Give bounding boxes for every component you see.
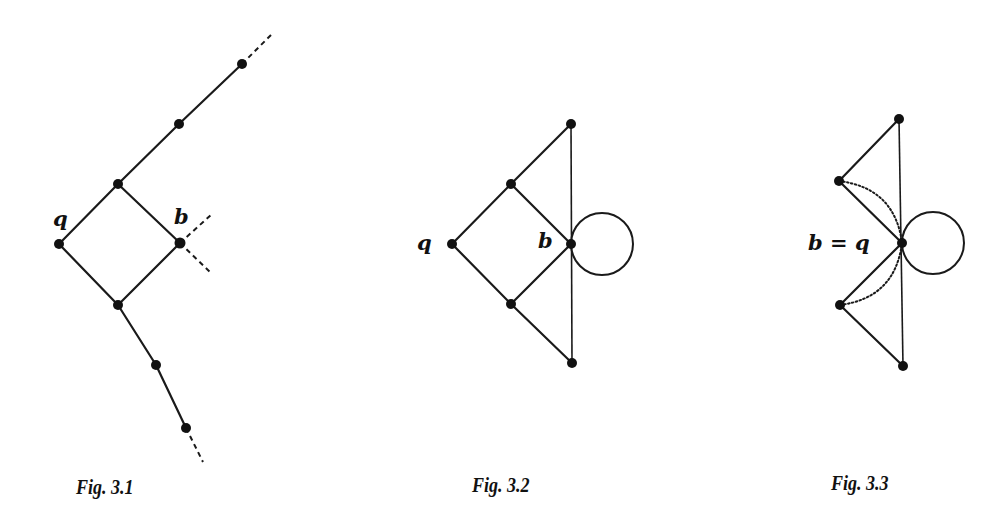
vertex bbox=[566, 119, 576, 129]
dashed-continuation bbox=[242, 33, 273, 64]
loop-at-bq bbox=[902, 212, 964, 274]
edge bbox=[840, 305, 903, 366]
edge bbox=[511, 244, 571, 304]
edge bbox=[118, 243, 180, 305]
vertex bbox=[894, 114, 904, 124]
caption-fig-3-3: Fig. 3.3 bbox=[831, 473, 889, 493]
edge bbox=[156, 365, 186, 428]
figure-panel: q b q b b = q Fig. 3.1 Fig. 3.2 Fig. 3.3 bbox=[0, 0, 1004, 524]
vertex bbox=[835, 300, 845, 310]
caption-fig-3-1: Fig. 3.1 bbox=[76, 477, 134, 497]
edge bbox=[118, 305, 156, 365]
dashed-continuation bbox=[180, 243, 212, 274]
vertex bbox=[506, 179, 516, 189]
label-b-fig-3-1: b bbox=[174, 206, 189, 227]
vertex bbox=[174, 119, 184, 129]
vertex-bq bbox=[897, 238, 907, 248]
vertex bbox=[113, 179, 123, 189]
vertex-b bbox=[566, 239, 576, 249]
vertex bbox=[237, 59, 247, 69]
graph-drawings bbox=[0, 0, 1004, 524]
edge bbox=[452, 244, 511, 304]
edge bbox=[179, 64, 242, 124]
vertex bbox=[151, 360, 161, 370]
label-bq-fig-3-3: b = q bbox=[808, 232, 870, 253]
label-q-fig-3-2: q bbox=[417, 232, 432, 253]
vertex-b bbox=[175, 238, 186, 249]
edge bbox=[839, 119, 899, 181]
edge bbox=[118, 184, 180, 243]
vertex bbox=[181, 423, 191, 433]
dashed-continuation bbox=[186, 428, 203, 462]
edge bbox=[59, 244, 118, 305]
vertex bbox=[113, 300, 123, 310]
label-q-fig-3-1: q bbox=[53, 208, 68, 229]
edge bbox=[118, 124, 179, 184]
edge bbox=[511, 124, 571, 184]
edge bbox=[452, 184, 511, 244]
vertex bbox=[506, 299, 516, 309]
vertex bbox=[898, 361, 908, 371]
edge bbox=[59, 184, 118, 244]
vertex bbox=[834, 176, 844, 186]
label-b-fig-3-2: b bbox=[538, 230, 553, 251]
vertex bbox=[567, 358, 577, 368]
edge bbox=[511, 304, 572, 363]
vertex-q bbox=[447, 239, 457, 249]
loop-at-b bbox=[571, 213, 633, 275]
vertex-q bbox=[54, 239, 64, 249]
graph-fig-3-1 bbox=[54, 33, 273, 462]
caption-fig-3-2: Fig. 3.2 bbox=[472, 475, 530, 495]
